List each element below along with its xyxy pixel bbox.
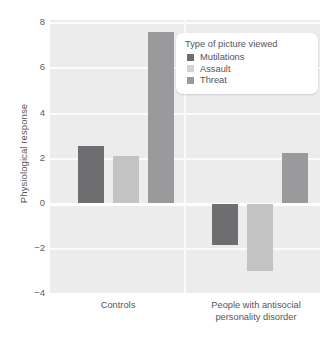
bar-antisocial-threat[interactable] <box>282 153 308 203</box>
y-tick-label-neg4: −4 <box>21 288 45 298</box>
bar-antisocial-assault[interactable] <box>247 204 273 271</box>
legend-swatch-assault-icon <box>187 65 194 72</box>
y-tick-label-6: 6 <box>21 62 45 72</box>
legend-swatch-mutilations-icon <box>187 54 194 61</box>
legend-item-mutilations[interactable]: Mutilations <box>185 52 310 62</box>
bar-controls-mutilations[interactable] <box>78 146 104 203</box>
y-tick-label-neg2: −2 <box>21 243 45 253</box>
x-axis-label-controls-line1: Controls <box>52 300 184 312</box>
bar-chart: Physiological response 8 6 4 2 0 −2 −4 <box>0 0 332 340</box>
legend-label-threat: Threat <box>200 75 227 85</box>
legend-label-assault: Assault <box>200 64 231 74</box>
y-tick-label-2: 2 <box>21 153 45 163</box>
y-tick-label-8: 8 <box>21 17 45 27</box>
legend: Type of picture viewed Mutilations Assau… <box>176 33 318 94</box>
bar-controls-threat[interactable] <box>148 32 174 203</box>
legend-swatch-threat-icon <box>187 77 194 84</box>
x-axis-label-antisocial: People with antisocial personality disor… <box>186 300 326 323</box>
legend-title: Type of picture viewed <box>185 39 310 49</box>
x-axis-label-antisocial-line2: personality disorder <box>186 312 326 324</box>
bar-antisocial-mutilations[interactable] <box>212 204 238 245</box>
x-axis-label-controls: Controls <box>52 300 184 312</box>
legend-item-assault[interactable]: Assault <box>185 64 310 74</box>
x-axis-label-antisocial-line1: People with antisocial <box>186 300 326 312</box>
y-tick-label-0: 0 <box>21 198 45 208</box>
legend-label-mutilations: Mutilations <box>200 52 244 62</box>
y-tick-label-4: 4 <box>21 108 45 118</box>
bar-controls-assault[interactable] <box>113 156 139 203</box>
legend-item-threat[interactable]: Threat <box>185 75 310 85</box>
